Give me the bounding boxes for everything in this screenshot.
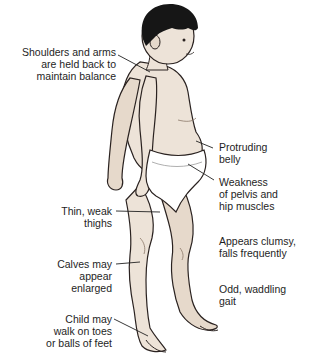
label-line: Calves may	[57, 258, 112, 270]
label-line: belly	[219, 153, 267, 165]
label-line: of pelvis and	[219, 188, 278, 200]
label-line: walk on toes	[46, 325, 112, 337]
label-line: gait	[219, 295, 286, 307]
label-toes: Child may walk on toes or balls of feet	[46, 313, 112, 349]
label-calves: Calves may appear enlarged	[57, 258, 112, 294]
label-line: Weakness	[219, 176, 278, 188]
underwear	[146, 150, 206, 212]
front-leg	[126, 185, 166, 352]
label-clumsy: Appears clumsy, falls frequently	[219, 235, 296, 259]
label-line: thighs	[61, 217, 112, 229]
label-line: maintain balance	[22, 70, 116, 82]
label-line: or balls of feet	[46, 337, 112, 349]
label-line: appear	[57, 270, 112, 282]
label-line: Shoulders and arms	[22, 46, 116, 58]
label-line: Thin, weak	[61, 205, 112, 217]
label-line: are held back to	[22, 58, 116, 70]
label-shoulders: Shoulders and arms are held back to main…	[22, 46, 116, 82]
label-line: Odd, waddling	[219, 283, 286, 295]
label-line: Child may	[46, 313, 112, 325]
label-line: enlarged	[57, 282, 112, 294]
label-pelvis: Weakness of pelvis and hip muscles	[219, 176, 278, 212]
label-line: falls frequently	[219, 247, 296, 259]
label-line: hip muscles	[219, 200, 278, 212]
label-line: Protruding	[219, 141, 267, 153]
label-gait: Odd, waddling gait	[219, 283, 286, 307]
label-thighs: Thin, weak thighs	[61, 205, 112, 229]
label-belly: Protruding belly	[219, 141, 267, 165]
label-line: Appears clumsy,	[219, 235, 296, 247]
